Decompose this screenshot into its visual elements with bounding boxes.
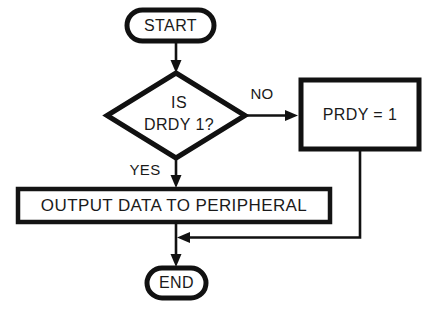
node-end: END [147,268,206,298]
edge-yes-label: YES [130,161,161,178]
diagram-background [0,0,432,313]
node-prdy: PRDY = 1 [301,80,419,149]
node-start: START [127,10,214,41]
node-output: OUTPUT DATA TO PERIPHERAL [18,189,330,222]
flowchart-diagram: START IS DRDY 1? NO PRDY = 1 YES OUTPUT … [0,0,432,313]
output-label: OUTPUT DATA TO PERIPHERAL [41,196,307,215]
end-label: END [159,274,194,291]
start-label: START [144,17,197,34]
edge-no-label: NO [250,85,273,102]
prdy-label: PRDY = 1 [323,106,398,123]
decision-label-line1: IS [171,94,187,111]
decision-label-line2: DRDY 1? [144,116,214,133]
